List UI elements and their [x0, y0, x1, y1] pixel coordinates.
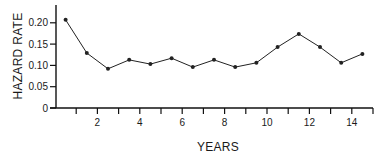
data-point: [127, 58, 131, 62]
y-axis: 00.050.100.150.20 HAZARD RATE: [11, 5, 56, 114]
x-tick-label: 4: [137, 117, 143, 128]
y-tick-label: 0.10: [29, 60, 49, 71]
y-axis-title: HAZARD RATE: [11, 12, 25, 99]
data-point: [276, 45, 280, 49]
x-tick-label: 10: [261, 117, 273, 128]
y-ticks: 00.050.100.150.20: [29, 17, 56, 113]
x-tick-label: 14: [346, 117, 358, 128]
hazard-rate-chart: 00.050.100.150.20 HAZARD RATE 2468101214…: [0, 0, 382, 159]
data-point: [297, 32, 301, 36]
x-tick-label: 8: [222, 117, 228, 128]
data-point: [254, 61, 258, 65]
data-point: [148, 62, 152, 66]
data-point: [360, 52, 364, 56]
y-tick-label: 0: [42, 103, 48, 114]
x-tick-label: 6: [179, 117, 185, 128]
data-point: [233, 65, 237, 69]
y-tick-label: 0.05: [29, 81, 49, 92]
data-point: [85, 51, 89, 55]
x-axis: 2468101214 YEARS: [50, 108, 373, 154]
data-point: [64, 18, 68, 22]
y-tick-label: 0.15: [29, 39, 49, 50]
data-point: [212, 58, 216, 62]
x-tick-label: 2: [95, 117, 101, 128]
data-point: [318, 45, 322, 49]
data-point: [191, 65, 195, 69]
data-point: [106, 67, 110, 71]
x-ticks: 2468101214: [76, 108, 373, 128]
data-point: [339, 61, 343, 65]
plot-area: [64, 18, 365, 71]
x-axis-title: YEARS: [197, 140, 239, 154]
x-tick-label: 12: [304, 117, 316, 128]
y-tick-label: 0.20: [29, 17, 49, 28]
data-point: [170, 56, 174, 60]
